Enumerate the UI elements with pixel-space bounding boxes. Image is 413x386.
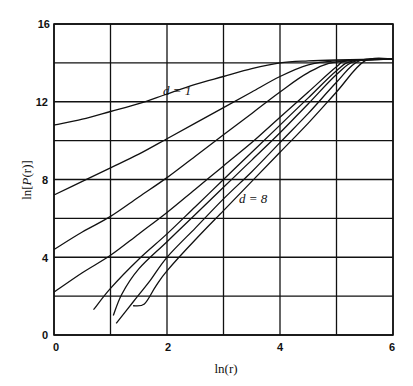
x-axis-label: ln(r) xyxy=(214,361,237,376)
x-tick-4: 4 xyxy=(277,341,284,353)
y-axis-label: ln[P(r)] xyxy=(19,160,34,200)
chart: 0 4 8 12 16 0 2 4 6 ln(r) ln[P(r)] d = 1… xyxy=(0,0,413,386)
x-tick-6: 6 xyxy=(389,341,395,353)
y-axis-label-suffix: (r)] xyxy=(19,160,34,177)
x-tick-0: 0 xyxy=(53,341,59,353)
x-tick-2: 2 xyxy=(165,341,171,353)
annotation-d1: d = 1 xyxy=(163,83,191,98)
y-tick-8: 8 xyxy=(42,174,48,186)
annotation-d8: d = 8 xyxy=(239,191,268,206)
y-tick-16: 16 xyxy=(38,18,50,30)
y-axis-label-prefix: ln[ xyxy=(19,185,34,199)
y-tick-12: 12 xyxy=(36,96,48,108)
y-axis-label-func: P xyxy=(19,177,34,186)
y-tick-4: 4 xyxy=(42,252,49,264)
y-tick-0: 0 xyxy=(42,329,48,341)
